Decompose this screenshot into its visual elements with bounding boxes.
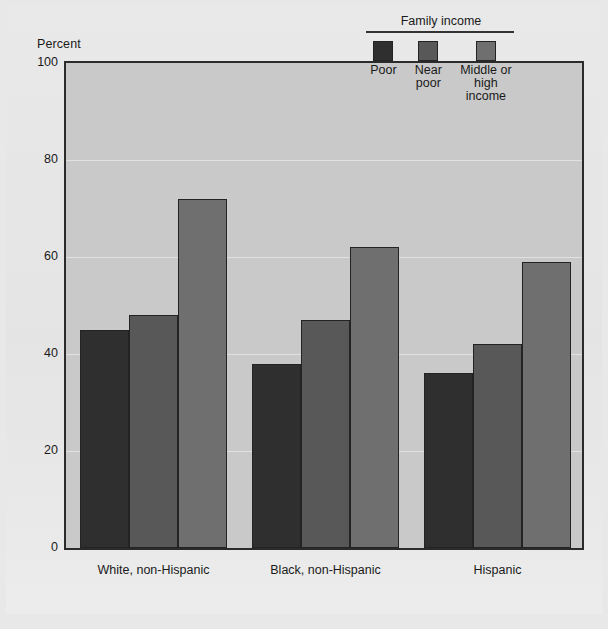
y-tick-label-40: 40 [14,346,58,360]
bar-0-2 [178,199,227,548]
y-tick-label-0: 0 [14,540,58,554]
legend-label-2: Middle or high income [456,64,516,103]
bar-2-1 [473,344,522,548]
bar-2-2 [522,262,571,548]
bar-0-1 [129,315,178,548]
figure-canvas: Percent 020406080100 White, non-Hispanic… [0,0,608,629]
figure-background: Percent 020406080100 White, non-Hispanic… [6,6,602,614]
gridline-60 [66,257,582,258]
legend-title: Family income [366,14,516,28]
legend-swatch-1 [418,41,438,61]
legend-label-1: Near poor [415,64,442,90]
legend-swatch-0 [373,41,393,61]
x-category-label-1: Black, non-Hispanic [236,563,416,577]
y-tick-label-60: 60 [14,249,58,263]
plot-inner [66,63,582,548]
legend-item-2: Middle or high income [456,41,516,103]
y-tick-label-20: 20 [14,443,58,457]
legend-item-0: Poor [366,41,401,77]
legend: Family income PoorNear poorMiddle or hig… [366,14,516,103]
y-tick-label-100: 100 [14,55,58,69]
bar-0-0 [80,330,129,548]
bar-1-2 [350,247,399,548]
legend-item-1: Near poor [411,41,446,90]
gridline-80 [66,160,582,161]
bar-1-1 [301,320,350,548]
legend-swatch-2 [476,41,496,61]
legend-items: PoorNear poorMiddle or high income [366,41,516,103]
x-category-label-2: Hispanic [408,563,588,577]
x-category-label-0: White, non-Hispanic [64,563,244,577]
y-axis-title: Percent [37,37,81,51]
plot-area [64,61,584,550]
legend-divider [366,31,514,33]
legend-label-0: Poor [370,64,396,77]
bar-1-0 [252,364,301,548]
bar-2-0 [424,373,473,548]
y-tick-label-80: 80 [14,152,58,166]
